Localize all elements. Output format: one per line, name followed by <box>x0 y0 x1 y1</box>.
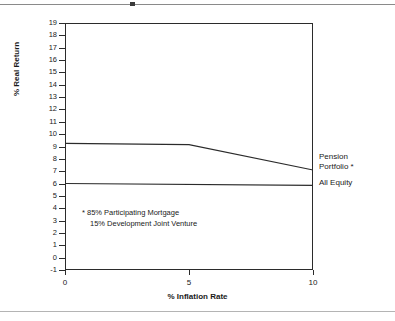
y-tick-label: 15 <box>49 68 57 76</box>
y-tick-label: 11 <box>49 118 57 126</box>
header-rule <box>0 4 395 5</box>
series-line <box>65 184 313 186</box>
y-tick-label: -1 <box>50 266 57 274</box>
header-mark <box>130 2 135 6</box>
x-tick-mark <box>65 270 66 275</box>
y-tick-label: 13 <box>49 93 57 101</box>
series-label-pension-portfolio: Pension Portfolio * <box>319 152 354 172</box>
series-label-all-equity: All Equity <box>319 178 352 188</box>
y-tick-label: 18 <box>49 31 57 39</box>
series-line <box>65 143 313 170</box>
chart-figure: % Real Return -1012345678910111213141516… <box>0 0 395 321</box>
y-tick-label: 8 <box>53 155 57 163</box>
footnote-line-1: * 85% Participating Mortgage <box>82 208 179 217</box>
series-label-pension-line1: Pension <box>319 152 354 162</box>
y-tick-label: 1 <box>53 241 57 249</box>
y-tick-label: 12 <box>49 105 57 113</box>
x-tick-mark <box>189 270 190 275</box>
y-tick-label: 2 <box>53 229 57 237</box>
y-tick-label: 0 <box>53 254 57 262</box>
y-tick-label: 4 <box>53 204 57 212</box>
x-axis-title: % Inflation Rate <box>0 292 395 301</box>
y-axis-ticks: -1012345678910111213141516171819 <box>0 23 65 270</box>
x-tick-label: 10 <box>301 278 325 287</box>
y-tick-label: 19 <box>49 19 57 27</box>
y-tick-label: 14 <box>49 81 57 89</box>
x-tick-mark <box>313 270 314 275</box>
footer-rule <box>0 311 395 312</box>
y-tick-label: 10 <box>49 130 57 138</box>
series-label-pension-line2: Portfolio * <box>319 162 354 172</box>
y-tick-label: 6 <box>53 180 57 188</box>
footnote-line-2: 15% Development Joint Venture <box>82 218 197 229</box>
y-tick-label: 9 <box>53 143 57 151</box>
y-tick-label: 7 <box>53 167 57 175</box>
x-tick-label: 5 <box>177 278 201 287</box>
x-tick-label: 0 <box>53 278 77 287</box>
y-tick-label: 5 <box>53 192 57 200</box>
y-tick-label: 3 <box>53 217 57 225</box>
y-tick-label: 16 <box>49 56 57 64</box>
y-tick-label: 17 <box>49 44 57 52</box>
series-lines <box>65 23 313 270</box>
footnote-annotation: * 85% Participating Mortgage 15% Develop… <box>82 207 197 229</box>
